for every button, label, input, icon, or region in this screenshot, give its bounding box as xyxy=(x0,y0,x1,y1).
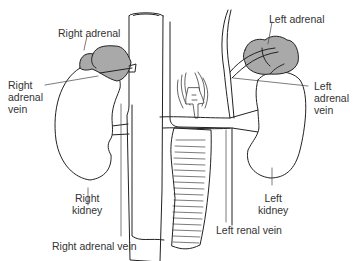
right-kidney xyxy=(55,66,120,180)
left-kidney xyxy=(247,72,305,178)
label-right-adrenal: Right adrenal xyxy=(58,27,120,39)
label-left-adrenal: Left adrenal xyxy=(269,13,324,25)
anatomy-illustration xyxy=(0,0,355,261)
adrenal-anatomy-diagram: Right adrenal Right adrenal vein Right k… xyxy=(0,0,355,261)
celiac-plexus xyxy=(177,72,207,118)
label-left-kidney: Left kidney xyxy=(258,192,288,216)
aorta xyxy=(171,128,211,249)
label-right-adrenal-vein-side: Right adrenal vein xyxy=(8,79,43,115)
left-adrenal-gland xyxy=(244,36,299,74)
label-left-adrenal-vein: Left adrenal vein xyxy=(314,80,349,116)
label-right-adrenal-vein-bottom: Right adrenal vein xyxy=(52,240,137,252)
label-left-renal-vein: Left renal vein xyxy=(216,224,282,236)
label-right-kidney: Right kidney xyxy=(72,192,102,216)
inferior-vena-cava xyxy=(127,13,164,261)
